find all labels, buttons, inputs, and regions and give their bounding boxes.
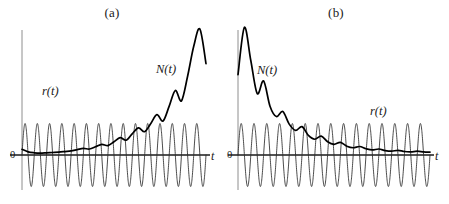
panel-b-carrier-label: r(t) [370, 105, 387, 118]
panel-a-envelope-label: N(t) [156, 63, 176, 76]
panel-b-origin-label: 0 [227, 150, 232, 161]
panel-b-envelope-label: N(t) [257, 64, 277, 77]
panel-b: (b) 0 t r(t) N(t) [224, 0, 448, 204]
figure-container: (a) 0 t r(t) N(t) (b) 0 t r(t) N(t) [0, 0, 449, 204]
panel-a-carrier-label: r(t) [42, 85, 59, 98]
panel-a: (a) 0 t r(t) N(t) [0, 0, 224, 204]
panel-a-x-axis-label: t [211, 150, 214, 162]
panel-b-x-axis-label: t [435, 150, 438, 162]
panel-b-envelope-curve [238, 27, 430, 152]
panel-a-origin-label: 0 [10, 150, 15, 161]
panel-a-plot [0, 0, 224, 204]
panel-b-plot [224, 0, 448, 204]
